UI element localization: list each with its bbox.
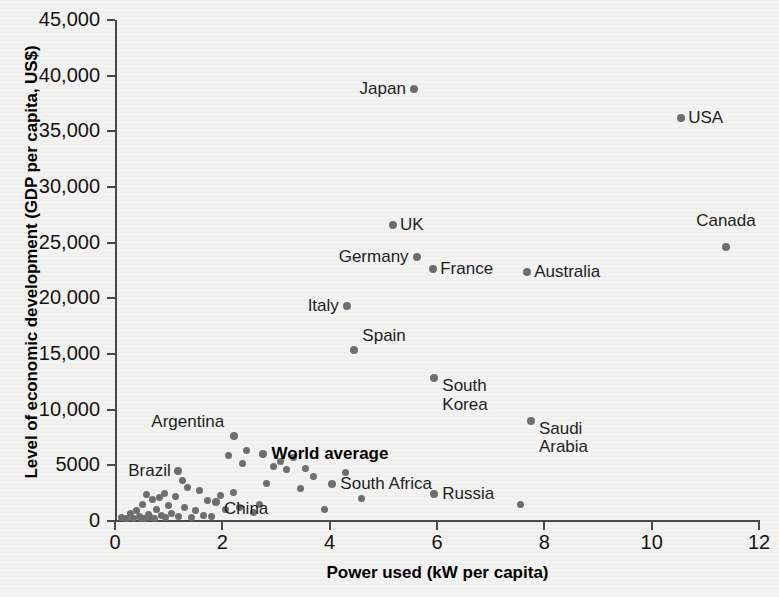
y-tick [107,75,115,77]
y-tick [107,130,115,132]
point-label-saudi-arabia: Saudi Arabia [539,419,588,456]
data-point [283,466,290,473]
data-point [204,497,211,504]
x-tick-label: 6 [417,532,457,552]
data-point [208,513,215,520]
data-point [297,485,304,492]
point-label-russia: Russia [442,485,494,503]
data-point [517,501,524,508]
data-point-saudi-arabia [527,417,535,425]
y-tick-label: 40,000 [0,65,100,85]
y-axis-title: Level of economic development (GDP per c… [22,12,42,512]
point-label-argentina: Argentina [151,413,224,431]
y-tick-label: 30,000 [0,176,100,196]
y-tick [107,186,115,188]
y-tick-label: 45,000 [0,9,100,29]
data-point [225,452,232,459]
y-tick [107,297,115,299]
point-label-uk: UK [400,216,424,234]
point-label-world-average: World average [272,445,389,463]
y-tick-label: 10,000 [0,399,100,419]
x-tick [221,522,223,530]
point-label-germany: Germany [339,248,409,266]
data-point-brazil [174,467,182,475]
data-point [358,495,365,502]
data-point [239,460,246,467]
data-point [179,477,186,484]
data-point-south-africa [328,480,336,488]
data-point [161,490,168,497]
data-point-uk [389,221,397,229]
data-point [172,493,179,500]
data-point [184,484,191,491]
data-point-italy [343,302,351,310]
data-point [243,447,250,454]
y-tick [107,19,115,21]
x-tick-label: 12 [739,532,779,552]
data-point [230,489,237,496]
x-tick-label: 4 [310,532,350,552]
point-label-china: China [224,500,268,518]
point-label-south-korea: South Korea [442,377,487,414]
x-tick-label: 0 [95,532,135,552]
y-tick-label: 5000 [0,454,100,474]
x-tick-label: 10 [632,532,672,552]
x-tick [114,522,116,530]
y-tick [107,464,115,466]
y-tick [107,242,115,244]
data-point-france [429,265,437,273]
point-label-spain: Spain [362,326,405,344]
data-point [321,506,328,513]
data-point [139,501,146,508]
y-tick-label: 0 [0,510,100,530]
data-point [192,507,199,514]
y-axis-line [115,20,117,522]
data-point-spain [350,346,358,354]
chart-figure: Level of economic development (GDP per c… [0,0,779,597]
data-point [188,514,195,521]
x-axis-title: Power used (kW per capita) [115,563,760,583]
data-point [165,502,172,509]
x-tick [543,522,545,530]
y-tick [107,353,115,355]
point-label-france: France [440,260,493,278]
data-point [263,480,270,487]
y-tick-label: 35,000 [0,120,100,140]
data-point-china [212,498,220,506]
data-point-canada [722,243,730,251]
y-tick [107,409,115,411]
x-tick-label: 2 [202,532,242,552]
data-point-japan [410,85,418,93]
data-point-germany [413,253,421,261]
data-point-australia [523,268,531,276]
x-tick [758,522,760,530]
data-point-argentina [230,432,238,440]
data-point [168,510,175,517]
point-label-usa: USA [688,109,723,127]
data-point [175,513,182,520]
x-tick [329,522,331,530]
data-point [310,473,317,480]
data-point [196,487,203,494]
data-point-south-korea [430,374,438,382]
data-point [200,512,207,519]
point-label-brazil: Brazil [128,462,171,480]
data-point [302,465,309,472]
data-point [270,463,277,470]
y-tick-label: 20,000 [0,287,100,307]
point-label-australia: Australia [534,262,600,280]
x-tick [651,522,653,530]
x-tick [436,522,438,530]
data-point [181,504,188,511]
data-point-world-average [259,450,267,458]
x-tick-label: 8 [524,532,564,552]
data-point-usa [677,114,685,122]
y-tick-label: 15,000 [0,343,100,363]
y-tick-label: 25,000 [0,232,100,252]
point-label-italy: Italy [308,297,339,315]
point-label-south-africa: South Africa [340,475,432,493]
point-label-canada: Canada [696,212,756,230]
point-label-japan: Japan [360,80,406,98]
